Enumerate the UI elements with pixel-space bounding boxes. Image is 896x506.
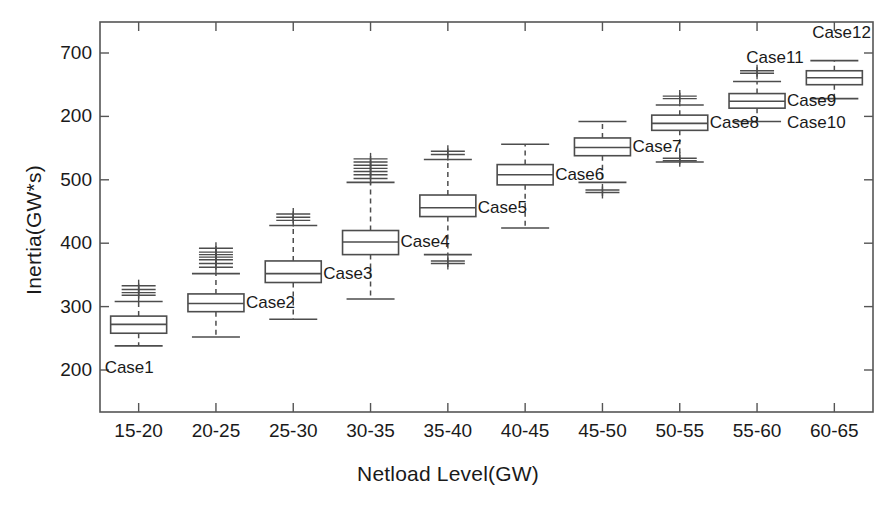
case-label-case3: Case3 — [323, 264, 372, 284]
case-label-case11: Case11 — [746, 48, 803, 68]
case-label-case8: Case8 — [710, 113, 759, 133]
case-label-case12: Case12 — [812, 23, 871, 43]
y-tick-label-0: 700 — [60, 42, 92, 64]
x-tick-label-40-45: 40-45 — [501, 420, 550, 442]
case-label-case1: Case1 — [105, 358, 154, 378]
case-label-case6: Case6 — [555, 165, 604, 185]
x-tick-label-25-30: 25-30 — [269, 420, 318, 442]
y-tick-label-5: 200 — [60, 359, 92, 381]
x-tick-label-30-35: 30-35 — [346, 420, 395, 442]
x-tick-label-15-20: 15-20 — [114, 420, 163, 442]
y-tick-label-4: 300 — [60, 296, 92, 318]
case-label-case9: Case9 — [787, 91, 836, 111]
y-axis-tick-labels: 700200500400300200 — [0, 0, 92, 506]
x-axis-title: Netload Level(GW) — [0, 462, 896, 486]
boxplot-figure: 700200500400300200 15-2020-2525-3030-353… — [0, 0, 896, 506]
x-tick-label-35-40: 35-40 — [424, 420, 473, 442]
box-plot-Case7 — [574, 121, 630, 198]
box — [420, 195, 476, 217]
case-label-case5: Case5 — [478, 198, 527, 218]
box — [265, 261, 321, 283]
x-tick-label-60-65: 60-65 — [810, 420, 859, 442]
case-label-case7: Case7 — [632, 137, 681, 157]
y-axis-title: Inertia(GW*s) — [22, 100, 46, 360]
y-tick-label-3: 400 — [60, 232, 92, 254]
box-plot-Case1 — [111, 280, 167, 346]
box-plot-Case2 — [188, 242, 244, 337]
y-tick-label-2: 500 — [60, 169, 92, 191]
x-tick-label-55-60: 55-60 — [733, 420, 782, 442]
x-tick-label-45-50: 45-50 — [578, 420, 627, 442]
x-tick-label-20-25: 20-25 — [192, 420, 241, 442]
x-tick-label-50-55: 50-55 — [655, 420, 704, 442]
case-label-case10: Case10 — [787, 113, 846, 133]
y-tick-label-1: 200 — [60, 105, 92, 127]
case-label-case4: Case4 — [401, 232, 450, 252]
case-label-case2: Case2 — [246, 293, 295, 313]
